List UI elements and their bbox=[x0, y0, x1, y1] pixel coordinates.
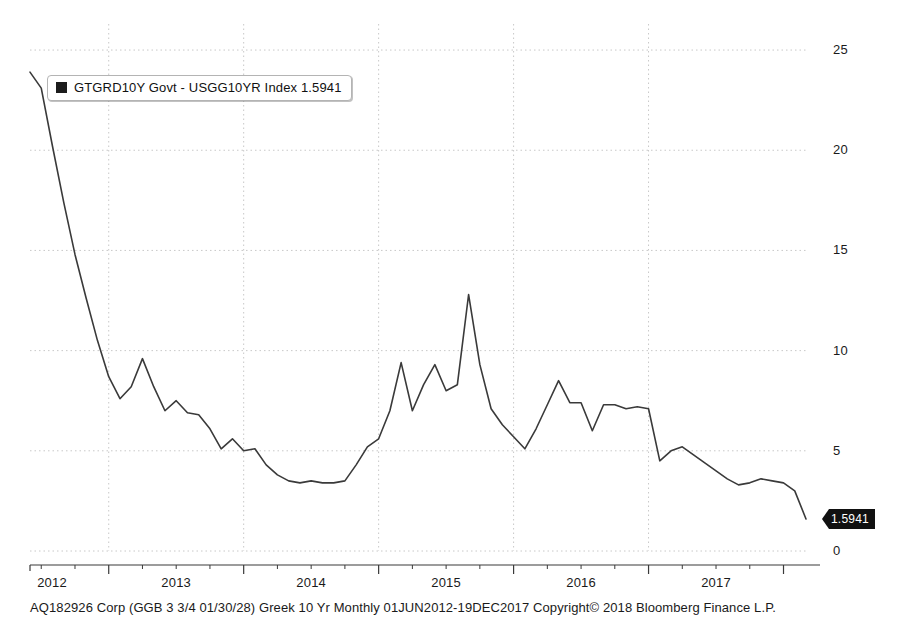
vertical-gridlines bbox=[109, 24, 649, 551]
x-axis-tick-label: 2013 bbox=[161, 575, 191, 590]
legend-swatch-icon bbox=[56, 82, 67, 93]
y-axis-tick-label: 5 bbox=[833, 443, 840, 458]
x-axis-tick-label: 2015 bbox=[431, 575, 461, 590]
y-axis-tick-label: 20 bbox=[833, 142, 848, 157]
chart-legend[interactable]: GTGRD10Y Govt - USGG10YR Index 1.5941 bbox=[47, 75, 352, 101]
x-axis-tick-label: 2012 bbox=[37, 575, 67, 590]
y-axis-tick-label: 0 bbox=[833, 543, 840, 558]
y-axis-tick-label: 15 bbox=[833, 242, 848, 257]
x-axis-tick-label: 2014 bbox=[296, 575, 326, 590]
x-axis-tick-label: 2016 bbox=[566, 575, 596, 590]
bloomberg-chart-screenshot: 0510152025 201220132014201520162017 GTGR… bbox=[0, 0, 900, 641]
y-axis-tick-label: 10 bbox=[833, 343, 848, 358]
price-tag-value: 1.5941 bbox=[829, 509, 875, 529]
price-tag-arrow-icon bbox=[822, 509, 829, 529]
footer-caption: AQ182926 Corp (GGB 3 3/4 01/30/28) Greek… bbox=[30, 600, 776, 615]
last-price-tag: 1.5941 bbox=[822, 509, 875, 529]
bottom-axis bbox=[30, 565, 820, 574]
legend-label: GTGRD10Y Govt - USGG10YR Index 1.5941 bbox=[74, 80, 342, 95]
price-line bbox=[30, 72, 806, 519]
x-axis-tick-label: 2017 bbox=[701, 575, 731, 590]
horizontal-gridlines bbox=[30, 50, 806, 551]
y-axis-tick-label: 25 bbox=[833, 42, 848, 57]
